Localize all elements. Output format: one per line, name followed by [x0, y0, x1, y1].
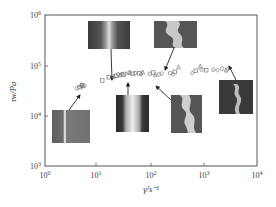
data-markers	[75, 64, 229, 90]
data-point-square	[194, 69, 198, 73]
inset-image-striped	[88, 21, 130, 49]
x-tick-1000: 103	[199, 170, 210, 180]
y-tick-10000: 104	[30, 111, 41, 121]
y-tick-100000: 105	[30, 61, 41, 71]
x-tick-10000: 104	[252, 170, 263, 180]
inset-images	[52, 21, 253, 143]
shear-stress-vs-shear-rate-chart: 100 101 102 103 104 103 104 105 106 γ̇/s…	[0, 0, 276, 207]
x-tick-100: 102	[146, 170, 157, 180]
inset-image-smooth	[52, 110, 90, 143]
inset-image-helical	[171, 95, 202, 133]
y-tick-1000: 103	[30, 161, 41, 171]
data-point-triangle	[112, 74, 116, 78]
y-axis-label: τw/Pa	[8, 82, 18, 103]
data-point-diamond	[216, 68, 220, 72]
inset-image-stripe-bottom	[116, 95, 149, 132]
x-tick-10: 101	[91, 170, 102, 180]
x-axis-label: γ̇/s⁻¹	[143, 184, 159, 194]
data-point-circle	[200, 68, 204, 72]
x-tick-labels: 100 101 102 103 104	[40, 170, 263, 180]
annotation-arrows	[69, 48, 236, 110]
data-point-square	[100, 79, 104, 83]
inset-image-distorted-top	[154, 21, 197, 48]
x-tick-1: 100	[40, 170, 51, 180]
data-point-circle	[220, 67, 224, 71]
data-point-square	[107, 75, 111, 79]
y-tick-1000000: 106	[30, 10, 41, 20]
inset-image-melt-fracture	[219, 80, 253, 114]
data-point-triangle	[177, 65, 181, 69]
y-tick-labels: 103 104 105 106	[30, 10, 41, 171]
data-point-circle	[133, 71, 137, 75]
data-point-square	[204, 68, 208, 72]
data-point-circle	[212, 68, 216, 72]
data-point-triangle	[198, 64, 202, 68]
data-point-diamond	[190, 71, 194, 75]
